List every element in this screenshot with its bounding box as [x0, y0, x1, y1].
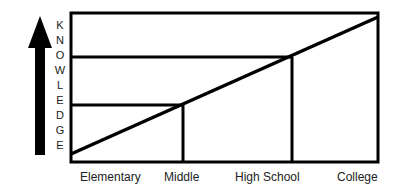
y-label-letter: K	[54, 19, 66, 31]
y-label-letter: E	[54, 94, 66, 106]
y-label-letter: W	[54, 64, 66, 76]
y-label-letter: N	[54, 34, 66, 46]
x-label-high-school: High School	[235, 170, 300, 184]
x-label-college: College	[337, 170, 378, 184]
y-label-letter: D	[54, 109, 66, 121]
x-label-middle: Middle	[164, 170, 199, 184]
x-label-elementary: Elementary	[80, 170, 141, 184]
y-label-letter: G	[54, 124, 66, 136]
y-label-letter: L	[54, 79, 66, 91]
y-label-letter: E	[54, 139, 66, 151]
chart-frame	[71, 13, 378, 162]
y-label-letter: O	[54, 49, 66, 61]
knowledge-growth-line	[71, 17, 378, 154]
up-arrow-icon	[28, 16, 52, 155]
